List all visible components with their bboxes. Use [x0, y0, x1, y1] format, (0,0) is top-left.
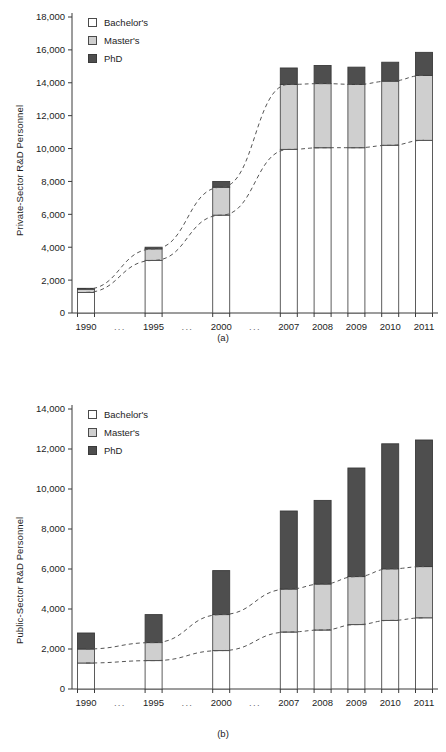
bar-segment-bachelor: [78, 292, 95, 313]
bar-segment-bachelor: [416, 618, 433, 689]
bar-segment-master: [348, 84, 365, 147]
svg-text:14,000: 14,000: [36, 403, 65, 414]
svg-text:2,000: 2,000: [41, 643, 65, 654]
x-ticks: [78, 313, 433, 317]
svg-text:2007: 2007: [278, 697, 299, 708]
bar-segment-master: [145, 249, 162, 261]
svg-text:2007: 2007: [278, 321, 299, 332]
svg-text:...: ...: [114, 697, 126, 708]
svg-text:...: ...: [249, 321, 261, 332]
svg-text:2010: 2010: [380, 697, 401, 708]
svg-text:2000: 2000: [211, 321, 232, 332]
bar-segment-bachelor: [280, 632, 297, 689]
bar-segment-master: [145, 643, 162, 661]
bar-segment-bachelor: [280, 149, 297, 313]
bar-segment-bachelor: [213, 215, 230, 313]
svg-text:8,000: 8,000: [41, 176, 65, 187]
svg-text:0: 0: [60, 307, 65, 318]
svg-text:18,000: 18,000: [36, 11, 65, 22]
plot-area-a: 02,0004,0006,0008,00010,00012,00014,0001…: [0, 0, 446, 350]
bar-segment-phd: [382, 444, 399, 569]
bar-segment-master: [416, 75, 433, 140]
bar-segment-master: [314, 84, 331, 148]
x-ticks: [78, 689, 433, 693]
axes: 02,0004,0006,0008,00010,00012,00014,0001…: [36, 11, 438, 318]
axes: 02,0004,0006,0008,00010,00012,00014,000: [36, 403, 438, 694]
bar-segment-master: [280, 84, 297, 149]
bar-segment-phd: [348, 468, 365, 577]
bar-segment-phd: [314, 500, 331, 584]
bar-segment-master: [416, 567, 433, 618]
bar-segment-bachelor: [382, 145, 399, 313]
bar-segment-master: [78, 649, 95, 663]
svg-text:8,000: 8,000: [41, 523, 65, 534]
svg-text:16,000: 16,000: [36, 44, 65, 55]
bar-segment-phd: [78, 633, 95, 649]
svg-text:14,000: 14,000: [36, 77, 65, 88]
bar-segment-master: [213, 615, 230, 651]
trend-line-bachelor-top: [86, 618, 424, 663]
svg-text:6,000: 6,000: [41, 563, 65, 574]
bar-segment-master: [280, 589, 297, 632]
svg-text:10,000: 10,000: [36, 483, 65, 494]
svg-text:2011: 2011: [414, 321, 434, 332]
bar-segment-bachelor: [348, 625, 365, 689]
bar-segment-bachelor: [348, 148, 365, 313]
bar-segment-bachelor: [145, 661, 162, 689]
svg-text:1990: 1990: [75, 321, 96, 332]
svg-text:2000: 2000: [211, 697, 232, 708]
svg-text:2009: 2009: [346, 697, 367, 708]
bar-segment-phd: [382, 62, 399, 81]
figure-container: Private-Sector R&D Personnel Bachelor's …: [0, 0, 446, 752]
chart-panel-b: Public-Sector R&D Personnel Bachelor's M…: [0, 352, 446, 752]
svg-text:1990: 1990: [75, 697, 96, 708]
bar-segment-phd: [348, 67, 365, 84]
svg-text:10,000: 10,000: [36, 143, 65, 154]
svg-text:12,000: 12,000: [36, 443, 65, 454]
svg-text:4,000: 4,000: [41, 603, 65, 614]
svg-text:...: ...: [114, 321, 126, 332]
bar-segment-bachelor: [145, 260, 162, 313]
bar-segment-phd: [416, 440, 433, 567]
bar-segment-phd: [145, 615, 162, 643]
svg-text:4,000: 4,000: [41, 242, 65, 253]
bar-segment-phd: [280, 511, 297, 589]
svg-text:2011: 2011: [414, 697, 434, 708]
bar-segment-bachelor: [314, 630, 331, 689]
bar-segment-phd: [213, 181, 230, 187]
plot-area-b: 02,0004,0006,0008,00010,00012,00014,0001…: [0, 352, 446, 752]
bar-segment-master: [314, 584, 331, 630]
bar-segment-bachelor: [416, 140, 433, 313]
bar-segment-phd: [314, 66, 331, 84]
caption-a: (a): [0, 332, 446, 343]
bars: [78, 440, 433, 689]
svg-text:...: ...: [181, 321, 193, 332]
trend-line-master-top: [86, 567, 424, 649]
bar-segment-phd: [213, 571, 230, 615]
x-axis: 1990...1995...2000...2007200820092010201…: [75, 697, 434, 708]
bar-segment-bachelor: [78, 663, 95, 689]
svg-text:1995: 1995: [143, 321, 164, 332]
chart-panel-a: Private-Sector R&D Personnel Bachelor's …: [0, 0, 446, 350]
bar-segment-master: [382, 569, 399, 621]
svg-text:6,000: 6,000: [41, 209, 65, 220]
svg-text:2,000: 2,000: [41, 275, 65, 286]
bar-segment-master: [382, 81, 399, 145]
svg-text:0: 0: [60, 683, 65, 694]
trend-lines: [86, 75, 424, 292]
svg-text:2008: 2008: [312, 321, 333, 332]
svg-text:2009: 2009: [346, 321, 367, 332]
bar-segment-bachelor: [314, 148, 331, 313]
bar-segment-master: [213, 187, 230, 215]
caption-b: (b): [0, 728, 446, 739]
svg-text:1995: 1995: [143, 697, 164, 708]
bar-segment-bachelor: [213, 651, 230, 689]
bar-segment-master: [348, 577, 365, 625]
bar-segment-phd: [416, 52, 433, 75]
trend-line-bachelor-top: [86, 140, 424, 292]
svg-text:2008: 2008: [312, 697, 333, 708]
svg-text:2010: 2010: [380, 321, 401, 332]
bar-segment-bachelor: [382, 620, 399, 689]
svg-text:...: ...: [249, 697, 261, 708]
svg-text:12,000: 12,000: [36, 110, 65, 121]
